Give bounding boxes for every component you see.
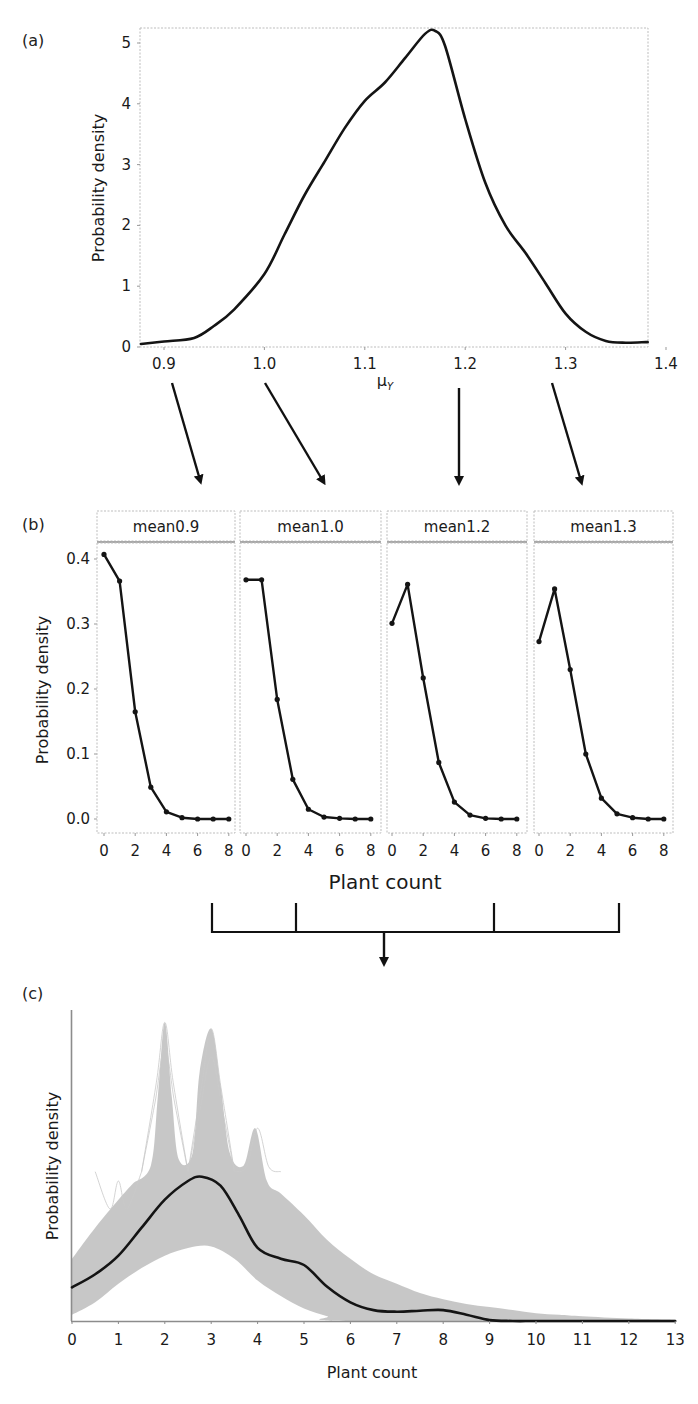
data-point — [646, 816, 651, 821]
a-to-b-arrows — [172, 383, 581, 481]
arrow-down-icon — [552, 383, 581, 481]
data-point — [133, 709, 138, 714]
data-point — [421, 675, 426, 680]
x-tick-label: 1.1 — [353, 355, 377, 373]
data-point — [179, 815, 184, 820]
panel-a: (a) 012345 0.91.01.11.21.31.4 Probabilit… — [22, 28, 678, 392]
x-tick-label: 4 — [253, 1331, 263, 1349]
x-tick-label: 10 — [526, 1331, 545, 1349]
data-point — [630, 815, 635, 820]
pmf-line — [539, 589, 664, 819]
x-tick-label: 12 — [619, 1331, 638, 1349]
x-tick-label: 0 — [67, 1331, 77, 1349]
panel-a-y-ticks: 012345 — [121, 34, 140, 356]
pmf-line — [104, 554, 229, 819]
data-point — [661, 816, 666, 821]
panel-c-simulation-band — [72, 1022, 675, 1321]
x-tick-label: 6 — [628, 842, 638, 860]
x-tick-label: 8 — [512, 842, 522, 860]
x-tick-label: 4 — [162, 842, 172, 860]
y-tick-label: 0.4 — [66, 550, 90, 568]
panel-b: (b) 0.00.10.20.30.4 Probability density … — [22, 511, 673, 894]
panel-b-label: (b) — [22, 515, 45, 534]
x-tick-label: 1 — [114, 1331, 124, 1349]
x-tick-label: 2 — [418, 842, 428, 860]
panel-c: (c) 012345678910111213 Probability densi… — [22, 984, 685, 1382]
data-point — [583, 751, 588, 756]
data-point — [306, 807, 311, 812]
panel-b-y-axis-title: Probability density — [33, 616, 52, 764]
data-point — [483, 816, 488, 821]
data-point — [211, 816, 216, 821]
y-tick-label: 4 — [121, 95, 131, 113]
x-tick-label: 4 — [304, 842, 314, 860]
panel-a-density-curve — [141, 30, 648, 344]
pmf-line — [246, 580, 371, 819]
arrow-down-icon — [172, 383, 200, 480]
data-point — [117, 579, 122, 584]
panel-b-facets: mean0.902468mean1.002468mean1.202468mean… — [97, 511, 673, 860]
facet-mean1.2: mean1.202468 — [387, 511, 527, 860]
x-tick-label: 2 — [130, 842, 140, 860]
data-point — [101, 552, 106, 557]
x-tick-label: 0 — [534, 842, 544, 860]
data-point — [337, 816, 342, 821]
pmf-line — [392, 584, 517, 819]
panel-b-x-axis-title: Plant count — [328, 870, 441, 894]
panel-a-y-axis-title: Probability density — [89, 114, 108, 262]
panel-a-x-ticks: 0.91.01.11.21.31.4 — [152, 347, 678, 373]
data-point — [568, 667, 573, 672]
data-point — [275, 697, 280, 702]
data-point — [195, 816, 200, 821]
data-point — [499, 816, 504, 821]
b-to-c-bracket — [212, 903, 619, 962]
data-point — [536, 639, 541, 644]
y-tick-label: 0.3 — [66, 615, 90, 633]
x-tick-label: 0 — [99, 842, 109, 860]
data-point — [514, 816, 519, 821]
y-tick-label: 0 — [121, 338, 131, 356]
x-tick-label: 8 — [366, 842, 376, 860]
y-tick-label: 5 — [121, 34, 131, 52]
x-tick-label: 1.3 — [554, 355, 578, 373]
data-point — [259, 577, 264, 582]
facet-strip-label: mean1.0 — [277, 518, 343, 536]
facet-strip-label: mean1.2 — [424, 518, 490, 536]
data-point — [164, 809, 169, 814]
x-tick-label: 8 — [659, 842, 669, 860]
panel-c-y-axis-title: Probability density — [43, 1092, 62, 1240]
figure: (a) 012345 0.91.01.11.21.31.4 Probabilit… — [0, 0, 698, 1404]
x-tick-label: 2 — [160, 1331, 170, 1349]
y-tick-label: 1 — [121, 277, 131, 295]
facet-mean1.0: mean1.002468 — [240, 511, 381, 860]
y-tick-label: 0.2 — [66, 680, 90, 698]
panel-c-x-ticks: 012345678910111213 — [67, 1321, 685, 1349]
panel-b-y-ticks: 0.00.10.20.30.4 — [66, 550, 97, 828]
merge-bracket — [212, 903, 619, 932]
x-tick-label: 3 — [206, 1331, 216, 1349]
data-point — [452, 800, 457, 805]
y-tick-label: 0.0 — [66, 810, 90, 828]
data-point — [467, 813, 472, 818]
facet-mean1.3: mean1.302468 — [534, 511, 673, 860]
facet-mean0.9: mean0.902468 — [97, 511, 235, 860]
arrow-down-icon — [265, 383, 323, 481]
y-tick-label: 2 — [121, 216, 131, 234]
x-tick-label: 1.4 — [654, 355, 678, 373]
x-tick-label: 11 — [573, 1331, 592, 1349]
panel-c-x-axis-title: Plant count — [327, 1363, 418, 1382]
panel-a-label: (a) — [22, 31, 44, 50]
x-tick-label: 13 — [666, 1331, 685, 1349]
x-tick-label: 8 — [438, 1331, 448, 1349]
data-point — [368, 816, 373, 821]
x-tick-label: 1.2 — [453, 355, 477, 373]
x-tick-label: 6 — [335, 842, 345, 860]
x-tick-label: 1.0 — [252, 355, 276, 373]
panel-a-frame — [140, 28, 648, 347]
data-point — [405, 582, 410, 587]
x-tick-label: 2 — [272, 842, 282, 860]
panel-c-label: (c) — [22, 984, 43, 1003]
data-point — [321, 814, 326, 819]
data-point — [353, 816, 358, 821]
x-tick-label: 2 — [565, 842, 575, 860]
